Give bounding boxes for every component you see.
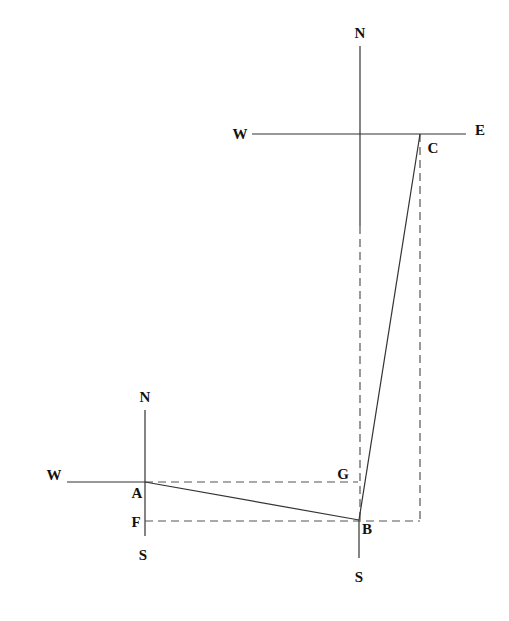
lower-left-compass: N W S bbox=[47, 389, 151, 563]
vector-AB bbox=[145, 482, 359, 520]
upper-west-label: W bbox=[233, 126, 248, 142]
upper-east-label: E bbox=[475, 122, 485, 138]
lower-south-label: S bbox=[139, 547, 147, 563]
upper-north-label: N bbox=[355, 25, 366, 41]
point-C-label: C bbox=[428, 140, 439, 156]
point-F-label: F bbox=[131, 514, 140, 530]
point-A-label: A bbox=[132, 485, 143, 501]
upper-compass: N W E bbox=[233, 25, 486, 226]
lower-west-label: W bbox=[47, 467, 62, 483]
point-G-label: G bbox=[337, 466, 349, 482]
lower-right-south-label: S bbox=[355, 569, 363, 585]
lower-north-label: N bbox=[140, 389, 151, 405]
vector-diagram: N W E N W S S A B C F G bbox=[0, 0, 509, 621]
point-B-label: B bbox=[362, 521, 372, 537]
vector-BC bbox=[359, 134, 420, 520]
